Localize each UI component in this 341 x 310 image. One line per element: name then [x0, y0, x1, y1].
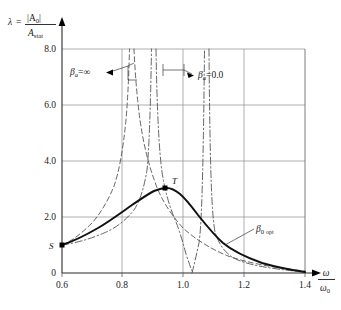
x-tick-1.4: 1.4 [299, 280, 311, 290]
x-axis-title-denom-sub: 0 [327, 287, 331, 294]
curve-beta-a-infinity-left [62, 49, 130, 245]
grid-group [62, 49, 305, 273]
y-tick-6: 6.0 [44, 100, 56, 110]
y-axis-title-denom-sub: stat [34, 32, 43, 39]
series-beta-a-infinity [62, 49, 305, 271]
curve-beta-a-zero-branch4 [209, 49, 305, 272]
x-axis-title: ω ω0 [318, 268, 335, 294]
x-tick-0.8: 0.8 [116, 280, 128, 290]
leader-beta-a-infinity [110, 63, 137, 80]
point-label-t: T [172, 176, 178, 186]
point-marker-t [163, 186, 168, 191]
x-tick-1.2: 1.2 [238, 280, 250, 290]
point-label-s: S [49, 241, 54, 251]
x-tick-0.6: 0.6 [56, 280, 68, 290]
y-axis-arrow [59, 17, 66, 26]
label-beta-0-opt-sub: 0 [261, 228, 265, 235]
x-axis-title-numerator: ω [323, 268, 330, 278]
y-axis-title-equals: = [16, 17, 21, 27]
y-axis-title: λ = |A0| Astat [7, 13, 56, 39]
label-beta-a-infinity: βa=∞ [69, 67, 90, 78]
y-axis-title-numer-close: | [39, 13, 41, 23]
y-tick-4: 4.0 [44, 156, 56, 166]
y-axis-title-lambda: λ [7, 17, 12, 27]
point-marker-s [60, 243, 65, 248]
y-tick-2: 2.0 [44, 212, 56, 222]
label-beta-a-zero-value: =0.0 [206, 70, 223, 80]
label-beta-0-opt-suffix: opt [266, 229, 274, 235]
leader-arrow-beta-a-infinity [106, 70, 113, 76]
leader-beta-0-opt [225, 229, 254, 245]
label-beta-a-infinity-value: =∞ [78, 67, 90, 77]
chart-canvas: 8.0 6.0 4.0 2.0 0 0.6 0.8 1.0 1.2 1.4 [0, 0, 341, 310]
label-beta-0-opt: β0opt [255, 224, 274, 235]
label-beta-a-zero: βa=0.0 [197, 70, 224, 81]
x-tick-1.0: 1.0 [177, 280, 189, 290]
point-markers [60, 186, 168, 248]
y-tick-0: 0 [51, 268, 56, 278]
y-tick-8: 8.0 [44, 44, 56, 54]
y-axis-title-denominator: Astat [27, 28, 43, 39]
x-tick-labels: 0.6 0.8 1.0 1.2 1.4 [56, 273, 311, 290]
chart-figure: 8.0 6.0 4.0 2.0 0 0.6 0.8 1.0 1.2 1.4 [0, 0, 341, 310]
y-axis-title-numerator: |A0| [27, 13, 41, 24]
axes-group [59, 17, 321, 276]
x-axis-title-denominator: ω0 [320, 283, 331, 294]
curve-beta-a-infinity-right [134, 49, 305, 271]
y-axis-title-numer-open: |A [27, 13, 36, 23]
x-axis-arrow [312, 270, 321, 277]
